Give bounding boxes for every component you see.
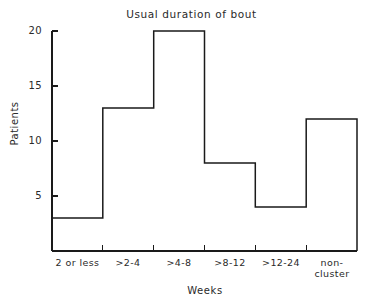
x-axis-title: Weeks xyxy=(52,285,358,296)
y-tick-label-10: 10 xyxy=(16,135,42,146)
y-axis-title: Patients xyxy=(9,94,20,154)
y-tick-label-20: 20 xyxy=(16,25,42,36)
histogram-series xyxy=(52,31,357,251)
chart-figure: Usual duration of bout 20 15 10 5 xyxy=(0,0,383,304)
y-tick-label-15: 15 xyxy=(16,80,42,91)
y-tick-marks xyxy=(52,31,58,196)
x-tick-label-5: non- cluster xyxy=(296,257,368,279)
x-tick-marks xyxy=(103,245,306,251)
histogram-step-path xyxy=(52,31,357,251)
y-tick-label-5: 5 xyxy=(16,190,42,201)
